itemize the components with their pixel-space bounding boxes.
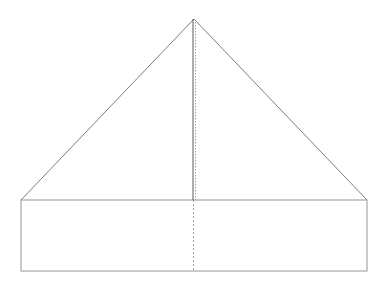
base-rectangle	[21, 200, 367, 271]
triangle-left-edge	[21, 19, 194, 200]
triangle-right-edge	[194, 19, 367, 200]
center-spine	[193, 19, 196, 200]
paper-airplane-diagram	[0, 0, 386, 286]
